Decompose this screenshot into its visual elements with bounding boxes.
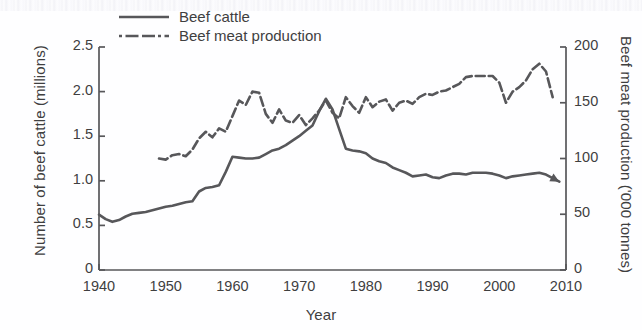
y-axis-left-tick-2.0: 2.0 <box>46 82 93 98</box>
y-axis-left-title: Number of beef cattle (millions) <box>31 31 48 271</box>
x-axis-tick-1960: 1960 <box>202 278 262 294</box>
x-axis-title: Year <box>0 306 642 323</box>
legend-item-beef-meat-production: Beef meat production <box>118 26 322 45</box>
chart-legend: Beef cattle Beef meat production <box>118 7 322 45</box>
y-axis-left-tick-1.5: 1.5 <box>46 126 93 142</box>
y-axis-right-tick-50: 50 <box>574 204 614 220</box>
y-axis-right-tick-150: 150 <box>574 93 614 109</box>
legend-key-solid-line-icon <box>118 12 170 22</box>
x-axis-tick-1990: 1990 <box>403 278 463 294</box>
y-axis-left-tick-2.5: 2.5 <box>46 37 93 53</box>
legend-label-beef-cattle: Beef cattle <box>179 8 250 25</box>
x-axis-tick-2000: 2000 <box>469 278 529 294</box>
legend-key-dashed-line-icon <box>118 31 170 41</box>
series-line-beef-cattle <box>99 99 559 222</box>
y-axis-left-tick-0.5: 0.5 <box>46 215 93 231</box>
legend-label-beef-meat-production: Beef meat production <box>179 27 322 44</box>
beef-cattle-production-chart: Number of beef cattle (millions) Beef me… <box>0 0 642 330</box>
chart-series <box>99 64 559 222</box>
x-axis-tick-1950: 1950 <box>136 278 196 294</box>
x-axis-tick-1980: 1980 <box>336 278 396 294</box>
y-axis-right-tick-100: 100 <box>574 149 614 165</box>
legend-item-beef-cattle: Beef cattle <box>118 7 322 26</box>
y-axis-right-tick-200: 200 <box>574 37 614 53</box>
y-axis-right-title: Beef meat production ('000 tonnes) <box>618 25 635 285</box>
y-axis-right-tick-0: 0 <box>574 260 614 276</box>
x-axis-tick-2010: 2010 <box>536 278 596 294</box>
x-axis-tick-1970: 1970 <box>269 278 329 294</box>
series-line-beef-meat-production <box>159 64 553 160</box>
y-axis-left-tick-0: 0 <box>46 260 93 276</box>
y-axis-left-tick-1.0: 1.0 <box>46 171 93 187</box>
x-axis-tick-1940: 1940 <box>69 278 129 294</box>
